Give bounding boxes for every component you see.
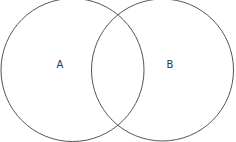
set-a-label: A bbox=[57, 59, 64, 70]
venn-diagram: A B bbox=[0, 0, 236, 142]
set-b-circle bbox=[92, 0, 234, 141]
set-b-label: B bbox=[167, 59, 174, 70]
set-a-circle bbox=[1, 0, 144, 142]
